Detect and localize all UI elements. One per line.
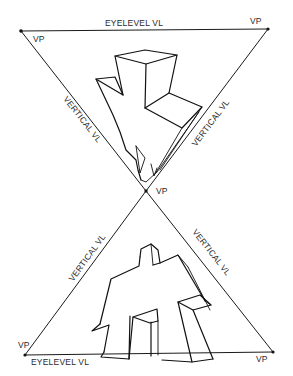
perspective-diagram: EYELEVEL VL VP VP VP VP VP EYELEVEL VL V…	[0, 0, 293, 376]
label-eyelevel-bottom: EYELEVEL VL	[31, 357, 89, 367]
label-vp-bottom-right: VP	[256, 354, 268, 364]
bottom-building	[92, 244, 213, 362]
eyelevel-line-bottom	[25, 352, 273, 355]
bottom-building-right-side-edge	[178, 255, 188, 267]
bottom-building-right-leg-right	[193, 310, 213, 359]
top-building-left-edge	[115, 56, 123, 95]
vanishing-points	[19, 27, 274, 356]
vp-dot-top-right	[266, 27, 269, 30]
vertical-line-bottom-left	[25, 191, 146, 355]
label-vertical-bottom-right: VERTICAL VL	[190, 227, 232, 277]
bottom-building-upper-left	[100, 257, 140, 324]
vertical-line-bottom-right	[146, 191, 273, 352]
top-building-front-edge	[145, 64, 146, 108]
bottom-building-left-leg	[101, 316, 130, 359]
label-vertical-top-left: VERTICAL VL	[61, 94, 103, 144]
bottom-building-tower-edge	[151, 244, 153, 265]
label-vp-top-left: VP	[33, 34, 45, 44]
label-vp-bottom-left: VP	[18, 340, 30, 350]
top-building-right-wing	[145, 93, 202, 128]
label-eyelevel-top: EYELEVEL VL	[105, 18, 163, 28]
label-vertical-bottom-left: VERTICAL VL	[67, 232, 108, 283]
bottom-building-left-notch	[92, 324, 109, 352]
top-building-left-silhouette	[96, 79, 141, 180]
bottom-building-upper-right	[153, 255, 205, 301]
label-vp-center: VP	[156, 186, 168, 196]
top-building-right-converge-3	[155, 128, 182, 174]
vp-dot-top-left	[19, 29, 23, 33]
bottom-building-right-base	[162, 359, 213, 362]
label-vp-top-right: VP	[250, 16, 262, 26]
top-building-right-edge	[169, 55, 177, 93]
eyelevel-line-top	[21, 29, 268, 31]
bottom-building-top-tower	[140, 244, 160, 263]
bottom-building-inner-bay	[133, 309, 158, 323]
top-building-left-wing	[96, 77, 123, 95]
vp-dot-center	[145, 190, 148, 193]
vp-dot-bottom-right	[271, 350, 274, 353]
vp-dot-bottom-left	[23, 353, 26, 356]
top-building-roof	[115, 50, 177, 64]
bottom-building-right-side-edge-2	[188, 267, 210, 310]
top-building	[96, 50, 202, 182]
